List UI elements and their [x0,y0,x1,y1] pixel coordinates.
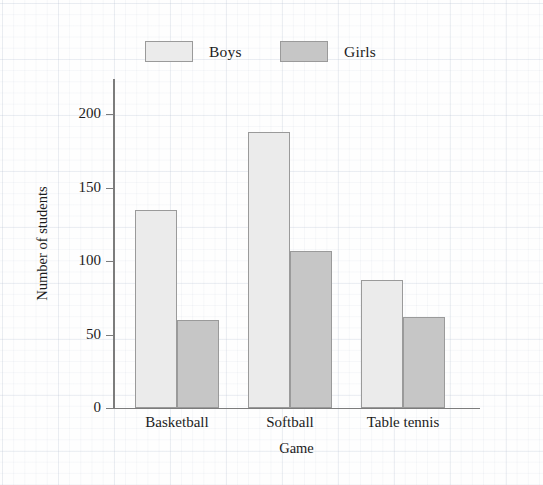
category-label-softball: Softball [238,414,342,431]
y-axis-line [113,79,115,409]
bar-basketball-girls [177,320,219,408]
y-axis-title: Number of students [34,169,51,319]
bar-chart: Boys Girls Number of students 0501001502… [0,0,543,485]
y-tick-mark [106,261,114,262]
y-tick-mark [106,188,114,189]
y-tick-label: 0 [61,399,101,416]
plot-area: Number of students 050100150200 Basketba… [0,0,543,485]
y-tick-mark [106,335,114,336]
y-tick-label: 50 [61,326,101,343]
bar-table-tennis-boys [361,280,403,408]
category-label-basketball: Basketball [125,414,229,431]
y-tick-mark [106,408,114,409]
bar-softball-girls [290,251,332,408]
y-tick-label: 200 [61,105,101,122]
x-axis-title: Game [113,440,480,457]
y-tick-label: 100 [61,252,101,269]
bar-basketball-boys [135,210,177,408]
y-tick-mark [106,114,114,115]
category-label-table-tennis: Table tennis [351,414,455,431]
bar-softball-boys [248,132,290,408]
y-tick-label: 150 [61,179,101,196]
bar-table-tennis-girls [403,317,445,408]
